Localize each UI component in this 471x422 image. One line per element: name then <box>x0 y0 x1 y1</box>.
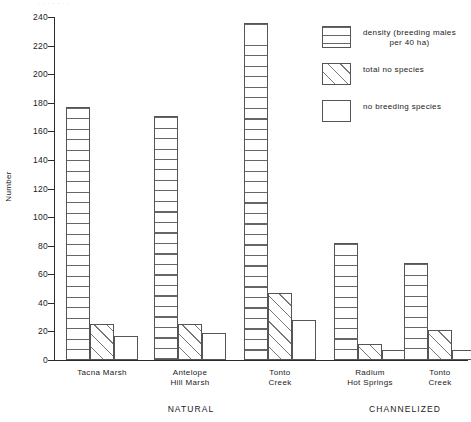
y-axis-tick-label: 240 <box>4 13 48 21</box>
bar <box>154 116 178 360</box>
bar <box>268 293 292 360</box>
y-axis-tick-label: 40 <box>4 299 48 307</box>
y-axis-title: Number <box>4 157 13 217</box>
y-axis-tick-label-wrap: 180 <box>0 99 48 107</box>
bar <box>382 350 406 360</box>
y-axis-tick-label: 20 <box>4 327 48 335</box>
bar <box>244 23 268 360</box>
caption-remnant: · · · · · · · <box>38 0 468 7</box>
y-axis-tick-label: 160 <box>4 127 48 135</box>
legend-swatch <box>322 100 351 122</box>
category-label: NATURAL <box>121 404 261 414</box>
y-axis-tick-label: 200 <box>4 70 48 78</box>
y-axis-tick-label-wrap: 40 <box>0 299 48 307</box>
x-axis-line <box>54 360 468 361</box>
legend-label: density (breeding males per 40 ha) <box>363 28 456 47</box>
bar <box>202 333 226 360</box>
y-axis-tick-label-wrap: 80 <box>0 242 48 250</box>
legend-swatch <box>322 63 351 85</box>
site-label: Tonto Creek <box>395 368 471 388</box>
y-axis-tick-label-wrap: 200 <box>0 70 48 78</box>
bar <box>358 344 382 360</box>
site-label: Antelope Hill Marsh <box>145 368 235 388</box>
bar <box>452 350 471 360</box>
y-axis-tick-label-wrap: 60 <box>0 270 48 278</box>
y-axis-tick-label-wrap: 220 <box>0 42 48 50</box>
site-label: Tacna Marsh <box>57 368 147 378</box>
bar <box>114 336 138 360</box>
y-axis-tick-label-wrap: 160 <box>0 127 48 135</box>
bar-chart-figure: · · · · · · · 02040608010012014016018020… <box>0 0 471 422</box>
legend: density (breeding males per 40 ha)total … <box>322 26 470 137</box>
legend-item: total no species <box>322 63 470 91</box>
y-axis-tick-label: 0 <box>4 356 48 364</box>
y-axis-tick-label-wrap: 20 <box>0 327 48 335</box>
y-axis-tick-label-wrap: 240 <box>0 13 48 21</box>
bar <box>90 324 114 360</box>
y-axis-tick-label-wrap: 0 <box>0 356 48 364</box>
bar <box>178 324 202 360</box>
y-axis-tick-label: 60 <box>4 270 48 278</box>
bar <box>292 320 316 360</box>
bar <box>334 243 358 360</box>
y-axis-tick-mark <box>48 360 55 361</box>
bar <box>428 330 452 360</box>
bar <box>66 107 90 360</box>
category-label: CHANNELIZED <box>335 404 471 414</box>
legend-swatch <box>322 26 351 48</box>
y-axis-tick-label: 180 <box>4 99 48 107</box>
legend-item: density (breeding males per 40 ha) <box>322 26 470 54</box>
legend-item: no breeding species <box>322 100 470 128</box>
site-label: Tonto Creek <box>235 368 325 388</box>
legend-label: total no species <box>363 65 424 75</box>
legend-label: no breeding species <box>363 102 441 112</box>
bar <box>404 263 428 360</box>
y-axis-tick-label: 220 <box>4 42 48 50</box>
y-axis-tick-label: 80 <box>4 242 48 250</box>
